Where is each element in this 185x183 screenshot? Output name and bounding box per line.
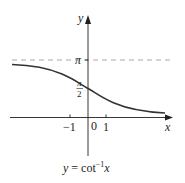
y-axis-arrow-icon	[85, 15, 91, 24]
y-axis-label: y	[77, 11, 84, 25]
tick-label-one: 1	[103, 120, 109, 134]
cot-inverse-curve	[12, 65, 165, 114]
tick-label-neg-one: −1	[63, 120, 76, 134]
x-axis-label: x	[164, 120, 171, 134]
tick-label-zero: 0	[91, 119, 97, 133]
pi-label: π	[75, 53, 82, 67]
cot-inverse-graph: y x π π 2 −1 0 1 y = cot−1x	[0, 0, 185, 183]
caption: y = cot−1x	[62, 160, 110, 175]
half-pi-denominator: 2	[77, 89, 82, 99]
caption-superscript: −1	[96, 160, 105, 169]
caption-variable: x	[103, 161, 110, 175]
half-pi-numerator: π	[77, 78, 82, 88]
caption-eq: = cot	[68, 161, 96, 175]
